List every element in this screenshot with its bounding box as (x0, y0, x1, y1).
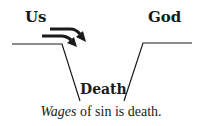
left-cliff-line (12, 44, 80, 101)
right-cliff-line (124, 43, 192, 101)
god-label: God (148, 10, 181, 25)
wages-of-sin-diagram: Us God Death Wages of sin is death. (0, 0, 202, 126)
caption: Wages of sin is death. (0, 105, 202, 119)
caption-italic-word: Wages (40, 104, 76, 119)
caption-text: of sin is death. (76, 104, 161, 119)
death-label: Death (80, 82, 127, 96)
us-label: Us (25, 10, 47, 25)
